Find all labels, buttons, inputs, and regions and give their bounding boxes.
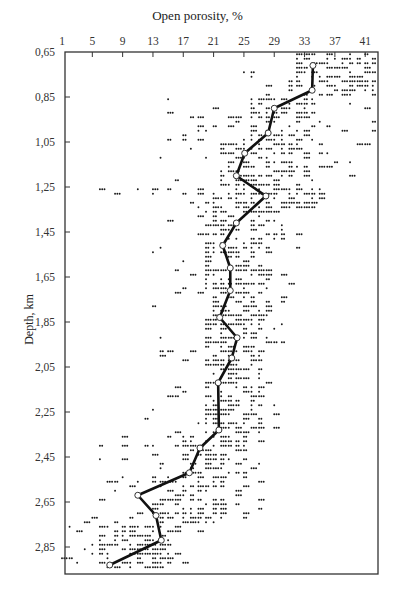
- trend-point: [242, 150, 248, 156]
- trend-point: [234, 335, 240, 341]
- y-tick-label: 2,25: [35, 406, 55, 419]
- trend-point: [229, 355, 235, 361]
- trend-line: [107, 63, 316, 569]
- trend-point: [309, 87, 315, 93]
- trend-point: [220, 243, 226, 249]
- trend-point: [233, 220, 239, 226]
- y-tick-label: 2,85: [35, 541, 55, 554]
- y-tick-label: 2,45: [35, 451, 55, 464]
- y-tick-label: 0,85: [35, 91, 55, 104]
- y-tick-label: 1,65: [35, 271, 55, 284]
- x-tick-label: 1: [59, 35, 65, 47]
- trend-point: [215, 380, 221, 386]
- trend-point: [263, 193, 269, 199]
- x-tick-label: 29: [268, 35, 280, 47]
- axes: 15913172125293337410,650,851,051,251,451…: [35, 35, 378, 574]
- trend-point: [271, 105, 277, 111]
- y-tick-label: 2,05: [35, 361, 55, 374]
- trend-point: [217, 315, 223, 321]
- trend-point: [107, 562, 113, 568]
- y-tick-label: 2,65: [35, 496, 55, 509]
- y-tick-label: 1,45: [35, 226, 55, 239]
- scatter-points: [61, 53, 376, 568]
- trend-point: [216, 427, 222, 433]
- y-tick-label: 0,65: [35, 46, 55, 59]
- x-tick-label: 25: [238, 35, 250, 47]
- trend-point: [227, 288, 233, 294]
- porosity-depth-chart: 15913172125293337410,650,851,051,251,451…: [0, 0, 395, 590]
- trend-point: [153, 513, 159, 519]
- trend-point: [135, 492, 141, 498]
- trend-point: [233, 173, 239, 179]
- x-tick-label: 21: [208, 35, 220, 47]
- trend-point: [197, 445, 203, 451]
- x-tick-label: 33: [299, 35, 311, 47]
- trend-point: [158, 537, 164, 543]
- y-tick-label: 1,85: [35, 316, 55, 329]
- y-tick-label: 1,05: [35, 136, 55, 149]
- trend-point: [265, 130, 271, 136]
- trend-point: [227, 265, 233, 271]
- y-tick-label: 1,25: [35, 181, 55, 194]
- x-tick-label: 5: [89, 35, 95, 47]
- trend-point: [186, 470, 192, 476]
- x-tick-label: 17: [178, 35, 190, 47]
- x-tick-label: 41: [359, 35, 371, 47]
- x-tick-label: 13: [147, 35, 159, 47]
- trend-point: [310, 63, 316, 69]
- x-tick-label: 37: [329, 35, 341, 47]
- x-tick-label: 9: [120, 35, 126, 47]
